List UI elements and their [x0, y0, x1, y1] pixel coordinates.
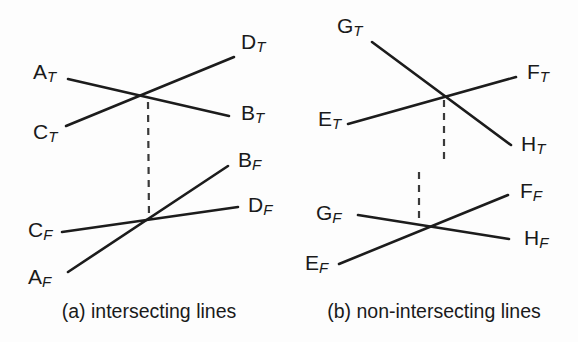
projector-line-proj-a — [148, 102, 149, 218]
caption-panel-a: (a) intersecting lines — [62, 300, 237, 322]
vertex-label-label-AF: AF — [28, 265, 52, 290]
vertex-label-label-CF: CF — [28, 218, 53, 243]
vertex-label-label-BT: BT — [241, 101, 266, 126]
figure-root: ATCTDTBTCFAFBFDF(a) intersecting lines G… — [0, 0, 578, 342]
line-segment-seg-b-top-EF — [348, 77, 516, 124]
vertex-label-label-CT: CT — [33, 120, 59, 145]
vertex-label-label-GT: GT — [337, 14, 364, 39]
line-segment-seg-b-front-EF — [339, 195, 508, 264]
vertex-label-label-AT: AT — [33, 60, 58, 85]
vertex-label-label-DF: DF — [248, 193, 273, 218]
vertex-label-label-EF: EF — [305, 251, 329, 276]
vertex-label-label-FF: FF — [520, 179, 543, 204]
vertex-label-label-HF: HF — [524, 226, 549, 251]
top-view-b: GTETFTHT — [318, 14, 551, 157]
line-segment-seg-a-top-CD — [66, 57, 234, 126]
vertex-label-label-HT: HT — [521, 132, 547, 157]
line-segment-seg-a-top-AB — [68, 79, 229, 116]
top-view-a: ATCTDTBT — [33, 30, 267, 145]
panel-b-group: GTETFTHTGFEFFFHF(b) non-intersecting lin… — [305, 14, 551, 323]
front-view-a: CFAFBFDF — [28, 148, 273, 290]
line-segment-seg-b-front-GH — [358, 215, 509, 239]
vertex-label-label-BF: BF — [238, 148, 262, 173]
caption-panel-b: (b) non-intersecting lines — [327, 300, 541, 322]
vertex-label-label-GF: GF — [316, 201, 342, 226]
panel-a-group: ATCTDTBTCFAFBFDF(a) intersecting lines — [28, 30, 273, 323]
vertex-label-label-FT: FT — [527, 60, 551, 85]
vertex-label-label-DT: DT — [241, 30, 267, 55]
diagram-canvas: ATCTDTBTCFAFBFDF(a) intersecting lines G… — [0, 0, 578, 342]
vertex-label-label-ET: ET — [318, 107, 343, 132]
line-segment-seg-b-top-GH — [372, 42, 511, 145]
front-view-b: GFEFFFHF — [305, 179, 549, 276]
